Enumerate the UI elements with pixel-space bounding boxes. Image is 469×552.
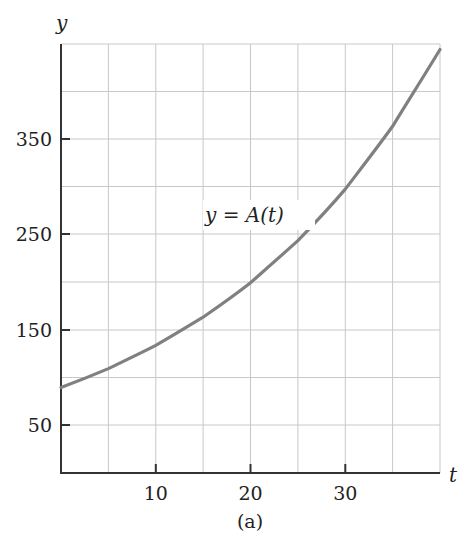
figure-caption: (a) xyxy=(237,510,263,532)
x-ticks xyxy=(156,464,345,473)
x-tick-label: 10 xyxy=(144,482,168,504)
y-tick-label: 350 xyxy=(16,128,52,150)
x-axis-label: t xyxy=(449,463,458,487)
x-tick-label: 30 xyxy=(333,482,357,504)
vertical-gridlines xyxy=(108,44,440,473)
y-tick-label: 150 xyxy=(16,319,52,341)
curve-annotation: y = A(t) xyxy=(204,203,284,227)
y-tick-label: 250 xyxy=(16,223,52,245)
x-tick-label: 20 xyxy=(238,482,262,504)
y-axis-label: y xyxy=(55,11,68,35)
y-tick-label: 50 xyxy=(28,414,52,436)
chart: y = A(t) 350 250 150 50 10 20 30 y t (a) xyxy=(0,0,469,552)
